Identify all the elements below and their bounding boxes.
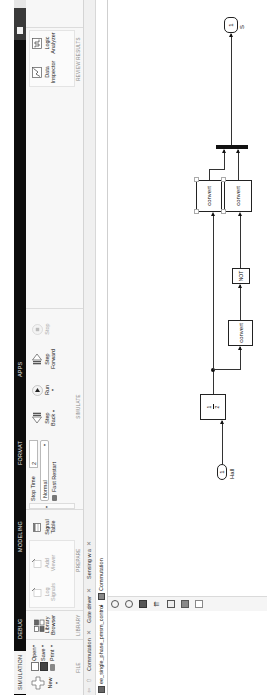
new-label: New (47, 676, 53, 690)
selection-handle[interactable] (221, 209, 226, 214)
new-dropdown-icon[interactable]: ▾ (54, 676, 60, 690)
close-icon[interactable]: ✕ (86, 588, 92, 593)
inport-hall[interactable]: 1 (217, 464, 227, 480)
doc-tab-gate-driver[interactable]: Gate driver✕ (84, 588, 95, 623)
save-label: Save (40, 648, 47, 661)
zoom-icon[interactable] (125, 600, 133, 608)
doc-tab-commutation[interactable]: Commutation✕ (84, 630, 95, 671)
arrow-icon (238, 284, 242, 288)
wire (209, 170, 210, 180)
breadcrumb-root[interactable]: ee_single_phase_pmsm_control (96, 605, 107, 684)
data-type-conversion-block-3[interactable]: convert (224, 180, 252, 212)
subsystem-icon (98, 593, 105, 600)
stop-icon (32, 324, 43, 335)
step-back-button[interactable]: Step Back ▾ (32, 406, 66, 430)
stop-button[interactable]: Stop (32, 318, 66, 340)
library-browser-label-2: Browser (50, 611, 56, 639)
quick-access-bar (14, 0, 26, 40)
logical-not-block[interactable]: NOT (232, 268, 250, 284)
fast-restart-icon (52, 495, 57, 501)
wire (213, 214, 214, 370)
prepare-section-title: PREPARE (76, 510, 81, 610)
stop-time-input[interactable]: 2 (29, 440, 38, 468)
tab-modeling[interactable]: MODELING (14, 521, 26, 552)
mux-block[interactable] (216, 145, 248, 149)
image-icon[interactable] (181, 600, 189, 608)
wire (213, 369, 240, 370)
selection-handle[interactable] (194, 209, 199, 214)
gain-denominator: 2 (215, 406, 220, 409)
log-signals-icon (32, 587, 42, 597)
toolstrip-tab-bar: SIMULATION DEBUG MODELING FORMAT APPS (14, 0, 26, 695)
outport-s[interactable]: 1 (224, 17, 238, 33)
run-dropdown-icon[interactable]: ▾ (50, 379, 56, 401)
outport-label: S (239, 25, 245, 29)
save-dropdown-icon[interactable]: ▾ (40, 645, 45, 647)
data-type-conversion-block-2[interactable]: convert (196, 180, 222, 212)
tab-format[interactable]: FORMAT (14, 441, 26, 465)
selection-handle[interactable] (194, 177, 199, 182)
breadcrumb: ee_single_phase_pmsm_control ▸ Commutati… (96, 0, 108, 695)
step-forward-label-2: Forward (50, 344, 56, 374)
doc-tab-label: Gate driver (86, 596, 92, 623)
tab-simulation[interactable]: SIMULATION (14, 651, 26, 695)
back-arrow-icon[interactable]: ⇦ (84, 688, 95, 693)
data-inspector-label-2: Inspector (50, 59, 56, 85)
annotation-icon[interactable] (167, 600, 175, 608)
doc-tab-label: Sensing w a (86, 549, 92, 579)
step-back-dropdown-icon[interactable]: ▾ (51, 410, 56, 412)
print-label: Print (49, 650, 56, 661)
quick-access-icon[interactable] (17, 27, 23, 34)
breadcrumb-separator: ▸ (96, 604, 107, 607)
simulate-section-title: SIMULATE (76, 309, 81, 504)
signal-table-button[interactable]: Signal Table (32, 514, 62, 540)
library-section: Library Browser LIBRARY (26, 610, 83, 639)
breadcrumb-current[interactable]: Commutation (96, 558, 107, 591)
review-results-section: Data Inspector Logic Analyzer REVIEW RES… (26, 27, 83, 90)
model-icon (98, 686, 105, 693)
add-viewer-label-2: Viewer (50, 550, 56, 576)
run-icon (32, 385, 43, 396)
gain-block[interactable]: 1 2 (200, 394, 226, 420)
new-button[interactable]: New ▾ (31, 676, 49, 690)
inport-label: Hall (229, 469, 235, 479)
block-label: convert (235, 186, 241, 206)
hide-show-explorer-icon[interactable] (111, 600, 119, 608)
open-icon (31, 662, 39, 671)
wire (240, 285, 241, 320)
simulation-mode-select[interactable]: Normal ▾ (40, 440, 49, 501)
print-dropdown-icon[interactable]: ▾ (49, 645, 54, 647)
fit-to-view-icon[interactable] (139, 600, 147, 608)
open-dropdown-icon[interactable]: ▾ (31, 645, 36, 647)
doc-tab-sensing[interactable]: Sensing w a✕ (84, 541, 95, 579)
signal-table-label-2: Table (50, 514, 56, 540)
arrow-routing-icon[interactable]: ⇈ (153, 600, 161, 608)
diagram-canvas[interactable]: 1 Hall 1 2 convert NOT (108, 0, 267, 596)
log-signals-button[interactable]: Log Signals (32, 580, 62, 604)
window-control[interactable] (14, 0, 26, 8)
run-button[interactable]: Run ▾ (32, 379, 66, 401)
arrow-icon (236, 149, 240, 153)
area-icon[interactable] (195, 600, 203, 608)
logic-analyzer-button[interactable]: Logic Analyzer (32, 29, 62, 57)
selection-handle[interactable] (221, 177, 226, 182)
tab-apps[interactable]: APPS (14, 362, 26, 377)
close-icon[interactable]: ✕ (86, 630, 92, 635)
tab-debug[interactable]: DEBUG (14, 618, 26, 639)
step-back-label-2: Back (50, 414, 56, 426)
up-arrow-icon[interactable]: ⇧ (84, 678, 95, 683)
data-type-conversion-block-1[interactable]: convert (228, 320, 253, 346)
data-inspector-icon (32, 67, 42, 78)
close-icon[interactable]: ✕ (86, 541, 92, 546)
data-inspector-button[interactable]: Data Inspector (32, 59, 62, 85)
logic-analyzer-label-2: Analyzer (50, 29, 56, 57)
wire (213, 370, 214, 394)
logic-analyzer-icon (32, 38, 42, 49)
prepare-section: Log Signals Add Viewer Signal Table PREP… (26, 509, 83, 610)
plus-icon (31, 676, 45, 690)
step-forward-button[interactable]: Step Forward (32, 344, 66, 374)
wire (209, 169, 224, 170)
stop-label: Stop (44, 318, 50, 340)
add-viewer-button[interactable]: Add Viewer (32, 550, 62, 576)
palette-toolbar: ⇈ (108, 596, 267, 611)
